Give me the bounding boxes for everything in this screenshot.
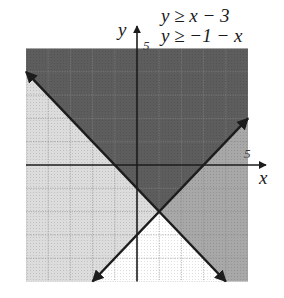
x-tick-5: 5 [244, 146, 251, 161]
y-tick-5: 5 [143, 38, 150, 53]
legend-inequality-1: y ≥ x − 3 [161, 6, 230, 25]
legend-inequality-2: y ≥ −1 − x [161, 26, 242, 45]
y-axis-label: y [116, 19, 127, 40]
x-axis-label: x [258, 167, 268, 188]
